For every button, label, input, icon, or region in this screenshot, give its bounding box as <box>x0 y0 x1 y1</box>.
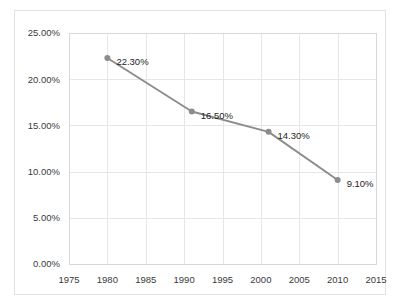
x-axis-tick-label: 2010 <box>327 274 348 285</box>
y-axis-tick-label: 20.00% <box>28 74 61 85</box>
data-point-marker <box>335 177 341 183</box>
data-point-marker <box>104 55 110 61</box>
chart-figure: 0.00%5.00%10.00%15.00%20.00%25.00% 19751… <box>14 10 386 295</box>
x-axis-tick-label: 2000 <box>250 274 271 285</box>
x-axis-tick-label: 1975 <box>58 274 79 285</box>
y-axis-tick-label: 10.00% <box>28 166 61 177</box>
data-point-label: 22.30% <box>116 56 149 67</box>
series-point-labels: 22.30%16.50%14.30%9.10% <box>116 56 374 189</box>
x-axis-tick-label: 1985 <box>135 274 156 285</box>
x-axis-tick-label: 2015 <box>365 274 386 285</box>
y-axis-tick-labels: 0.00%5.00%10.00%15.00%20.00%25.00% <box>28 27 61 269</box>
y-axis-tick-label: 0.00% <box>33 258 60 269</box>
y-axis-tick-label: 25.00% <box>28 27 61 38</box>
data-point-label: 9.10% <box>347 178 374 189</box>
x-axis-tick-label: 1990 <box>174 274 195 285</box>
horizontal-gridlines <box>69 34 376 219</box>
data-point-marker <box>189 109 195 115</box>
data-point-label: 16.50% <box>201 110 234 121</box>
x-axis-tick-label: 1995 <box>212 274 233 285</box>
line-chart: 0.00%5.00%10.00%15.00%20.00%25.00% 19751… <box>15 11 387 296</box>
y-axis-tick-label: 15.00% <box>28 120 61 131</box>
y-axis-tick-label: 5.00% <box>33 212 60 223</box>
x-axis-tick-labels: 197519801985199019952000200520102015 <box>58 274 386 285</box>
vertical-gridlines <box>108 33 339 264</box>
data-point-label: 14.30% <box>278 130 311 141</box>
data-point-marker <box>266 129 272 135</box>
x-axis-tick-label: 1980 <box>97 274 118 285</box>
x-axis-tick-label: 2005 <box>289 274 310 285</box>
